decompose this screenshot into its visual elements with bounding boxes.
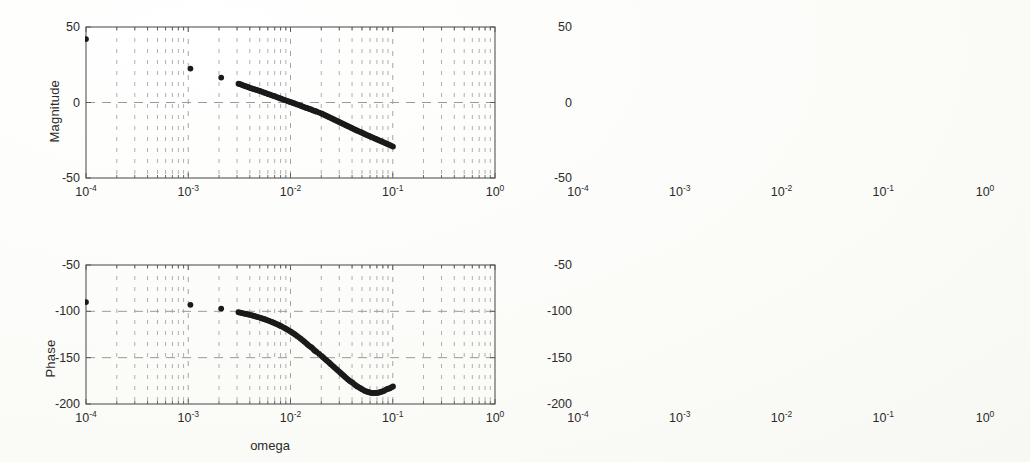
x-tick-label: 100: [486, 185, 505, 199]
x-tick-label: 10-2: [771, 185, 792, 199]
x-tick-label: 10-3: [178, 185, 199, 199]
y-tick-label: -100: [532, 304, 572, 318]
y-tick-label: -50: [40, 171, 80, 185]
x-tick-label: 10-2: [280, 411, 301, 425]
y-tick-label: -50: [532, 258, 572, 272]
x-tick-label: 10-1: [873, 411, 894, 425]
x-tick-label: 10-4: [567, 411, 588, 425]
tick-label-layer: 500-5010-410-310-210-1100500-5010-410-31…: [0, 0, 1030, 462]
y-tick-label: -50: [532, 171, 572, 185]
x-tick-label: 10-1: [873, 185, 894, 199]
y-tick-label: -50: [40, 258, 80, 272]
x-tick-label: 100: [486, 411, 505, 425]
x-tick-label: 100: [976, 411, 995, 425]
y-tick-label: 50: [40, 20, 80, 34]
x-tick-label: 10-2: [280, 185, 301, 199]
x-tick-label: 10-1: [382, 411, 403, 425]
x-tick-label: 100: [976, 185, 995, 199]
x-tick-label: 10-1: [382, 185, 403, 199]
x-tick-label: 10-4: [75, 411, 96, 425]
x-tick-label: 10-4: [75, 185, 96, 199]
y-tick-label: -150: [40, 351, 80, 365]
y-tick-label: -100: [40, 304, 80, 318]
x-tick-label: 10-2: [771, 411, 792, 425]
y-tick-label: -150: [532, 351, 572, 365]
x-tick-label: 10-3: [669, 185, 690, 199]
y-tick-label: -200: [40, 397, 80, 411]
x-tick-label: 10-3: [178, 411, 199, 425]
y-tick-label: 0: [40, 96, 80, 110]
y-tick-label: 0: [532, 96, 572, 110]
y-tick-label: 50: [532, 20, 572, 34]
y-tick-label: -200: [532, 397, 572, 411]
x-tick-label: 10-4: [567, 185, 588, 199]
x-tick-label: 10-3: [669, 411, 690, 425]
